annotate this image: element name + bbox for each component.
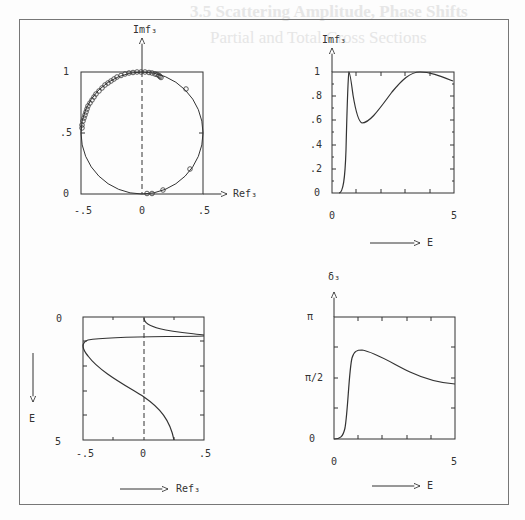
- figure: Imf₃ Ref₃ -.5 0 .5 1 .5 0 Imf₃ E 0 5 1: [0, 0, 525, 520]
- tick-label: .5: [60, 127, 72, 138]
- panel-ref-vs-e-labels: E Ref₃ -.5 0 .5 0 5: [29, 313, 211, 494]
- delta-vs-e-xlabel: E: [427, 480, 433, 491]
- tick-label: 1: [314, 66, 320, 77]
- tick-label: π: [307, 311, 313, 322]
- panel-ref-vs-e: [33, 317, 204, 489]
- tick-label: .5: [199, 448, 211, 459]
- tick-label: 1: [63, 66, 69, 77]
- tick-label: -.5: [74, 205, 92, 216]
- tick-label: .6: [310, 114, 322, 125]
- imf-vs-e-xlabel: E: [427, 237, 433, 248]
- tick-label: 0: [314, 187, 320, 198]
- panel-argand-labels: Imf₃ Ref₃ -.5 0 .5 1 .5 0: [60, 24, 257, 216]
- tick-label: 0: [56, 313, 62, 324]
- tick-label: .8: [310, 90, 322, 101]
- tick-label: 0: [63, 188, 69, 199]
- tick-label: 5: [451, 456, 457, 467]
- argand-ylabel: Imf₃: [133, 24, 157, 35]
- tick-label: 0: [140, 448, 146, 459]
- panel-imf-vs-e: [332, 48, 454, 243]
- tick-label: 0: [309, 433, 315, 444]
- tick-label: .2: [310, 163, 322, 174]
- argand-xlabel: Ref₃: [233, 188, 257, 199]
- ref-vs-e-xlabel: Ref₃: [176, 483, 200, 494]
- delta-vs-e-ylabel: δ₃: [328, 271, 340, 282]
- ref-vs-e-ylabel: E: [29, 413, 35, 424]
- panel-argand: [80, 38, 227, 196]
- tick-label: 5: [55, 436, 61, 447]
- tick-label: 0: [139, 205, 145, 216]
- tick-label: 0: [329, 210, 335, 221]
- tick-label: -.5: [76, 448, 94, 459]
- tick-label: 5: [451, 210, 457, 221]
- tick-label: .5: [198, 205, 210, 216]
- imf-vs-e-ylabel: Imf₃: [322, 34, 346, 45]
- tick-label: .4: [310, 139, 322, 150]
- tick-label: 0: [331, 456, 337, 467]
- panel-delta-vs-e: [334, 292, 455, 486]
- tick-label: π/2: [305, 372, 323, 383]
